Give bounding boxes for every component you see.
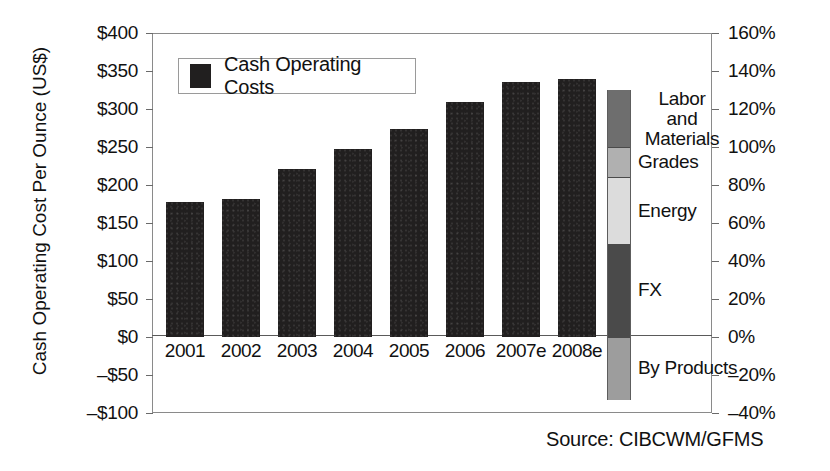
y-tick-label-left: $400 xyxy=(97,22,138,44)
y-tick-mark-right xyxy=(712,71,719,72)
bar-2001 xyxy=(166,202,204,337)
y-tick-label-left: $50 xyxy=(107,288,138,310)
y-tick-mark-right xyxy=(712,261,719,262)
y-axis-left: Cash Operating Cost Per Ounce (US$) $400… xyxy=(0,0,152,471)
bar-2005 xyxy=(390,129,428,337)
y-tick-label-right: 60% xyxy=(728,212,765,234)
y-tick-mark-left xyxy=(146,147,153,148)
y-tick-mark-left xyxy=(146,185,153,186)
x-axis-label-2008e: 2008e xyxy=(542,340,612,362)
y-tick-mark-left xyxy=(146,109,153,110)
stack-segment-grades xyxy=(608,147,630,177)
stack-label-fx: FX xyxy=(638,279,662,301)
stack-segment-labor-and-materials xyxy=(608,90,630,147)
y-tick-label-right: –40% xyxy=(728,402,775,424)
y-tick-mark-right xyxy=(712,223,719,224)
cost-breakdown-stacked-bar xyxy=(607,90,631,400)
y-tick-mark-right xyxy=(712,337,719,338)
y-tick-mark-left xyxy=(146,33,153,34)
y-tick-label-right: 100% xyxy=(728,136,775,158)
y-tick-label-left: $150 xyxy=(97,212,138,234)
y-tick-mark-left xyxy=(146,261,153,262)
stack-label-by-products: By Products xyxy=(638,357,737,379)
legend-label-cash-operating-costs: Cash Operating Costs xyxy=(224,53,415,99)
stack-segment-by-products xyxy=(608,337,630,400)
y-tick-label-left: $200 xyxy=(97,174,138,196)
y-tick-label-right: 160% xyxy=(728,22,775,44)
bar-2002 xyxy=(222,199,260,337)
y-tick-mark-right xyxy=(712,33,719,34)
y-tick-label-left: –$100 xyxy=(87,402,138,424)
y-tick-mark-left xyxy=(146,299,153,300)
y-tick-mark-right xyxy=(712,299,719,300)
y-tick-label-right: 80% xyxy=(728,174,765,196)
y-axis-right: 160%140%120%100%80%60%40%20%0%–20%–40% xyxy=(712,0,830,471)
legend: Cash Operating Costs xyxy=(178,58,416,94)
y-tick-mark-left xyxy=(146,71,153,72)
bar-2004 xyxy=(334,149,372,337)
y-tick-label-left: $250 xyxy=(97,136,138,158)
source-note: Source: CIBCWM/GFMS xyxy=(546,428,763,451)
y-tick-mark-left xyxy=(146,337,153,338)
y-tick-label-left: $100 xyxy=(97,250,138,272)
y-tick-mark-right xyxy=(712,413,719,414)
y-tick-label-right: 120% xyxy=(728,98,775,120)
y-tick-mark-left xyxy=(146,375,153,376)
bar-2007e xyxy=(502,82,540,337)
y-tick-mark-right xyxy=(712,185,719,186)
stack-label-energy: Energy xyxy=(638,200,696,222)
y-tick-label-left: –$50 xyxy=(97,364,138,386)
y-tick-label-left: $300 xyxy=(97,98,138,120)
bar-2003 xyxy=(278,169,316,337)
stack-segment-fx xyxy=(608,244,630,337)
bar-2008e xyxy=(558,79,596,337)
y-tick-label-left: $0 xyxy=(117,326,138,348)
legend-swatch-cash-operating-costs xyxy=(190,64,211,88)
stack-label-labor-and-materials: Labor and Materials xyxy=(636,89,728,149)
bar-2006 xyxy=(446,102,484,337)
stack-segment-energy xyxy=(608,177,630,244)
y-tick-label-right: 0% xyxy=(728,326,755,348)
y-tick-label-right: 20% xyxy=(728,288,765,310)
y-tick-mark-left xyxy=(146,223,153,224)
stack-label-grades: Grades xyxy=(638,151,699,173)
y-tick-label-right: 140% xyxy=(728,60,775,82)
y-tick-mark-left xyxy=(146,413,153,414)
y-tick-label-right: 40% xyxy=(728,250,765,272)
y-axis-title: Cash Operating Cost Per Ounce (US$) xyxy=(29,11,51,411)
y-tick-label-left: $350 xyxy=(97,60,138,82)
